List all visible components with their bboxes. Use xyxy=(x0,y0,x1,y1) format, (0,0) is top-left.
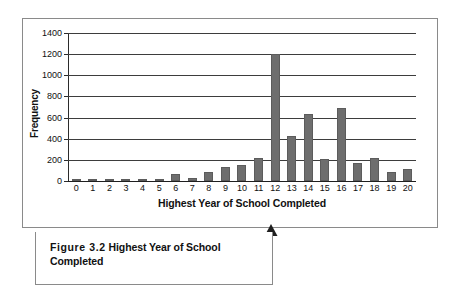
x-axis-tick-label: 8 xyxy=(206,183,211,193)
figure-caption-label: Figure 3.2 xyxy=(50,241,106,253)
x-axis-tick-label: 14 xyxy=(303,183,313,193)
y-axis-title: Frequency xyxy=(26,58,42,168)
x-axis-tick-label: 7 xyxy=(190,183,195,193)
y-axis-tick-label: 1400 xyxy=(42,28,62,38)
bar xyxy=(320,159,329,181)
bar xyxy=(287,136,296,181)
y-axis-tick-label: 1200 xyxy=(42,49,62,59)
x-axis-tick-label: 17 xyxy=(353,183,363,193)
x-axis-tick-label: 15 xyxy=(320,183,330,193)
x-axis-tick-label: 4 xyxy=(140,183,145,193)
figure-container: Frequency 0200400600800100012001400 0123… xyxy=(0,0,461,291)
x-axis-tick-label: 5 xyxy=(157,183,162,193)
bar-slot xyxy=(201,33,218,181)
bar-slot xyxy=(283,33,300,181)
x-axis-title: Highest Year of School Completed xyxy=(68,197,416,209)
x-axis-tick-label: 3 xyxy=(123,183,128,193)
bar xyxy=(353,163,362,182)
x-axis-tick-labels: 01234567891011121314151617181920 xyxy=(68,183,416,197)
bar xyxy=(221,167,230,181)
x-axis-tick-label: 0 xyxy=(74,183,79,193)
y-axis-tick-label: 0 xyxy=(57,176,62,186)
bar-slot xyxy=(333,33,350,181)
x-axis-tick-label: 16 xyxy=(336,183,346,193)
x-axis-tick-label: 1 xyxy=(90,183,95,193)
bar xyxy=(304,114,313,181)
y-axis-tick-label: 1000 xyxy=(42,70,62,80)
bar-slot xyxy=(399,33,416,181)
bar-slot xyxy=(167,33,184,181)
bar-slot xyxy=(217,33,234,181)
bar xyxy=(171,174,180,181)
x-axis-tick-label: 11 xyxy=(254,183,263,193)
bar-slot xyxy=(300,33,317,181)
bar-slot xyxy=(234,33,251,181)
y-axis-tick-label: 800 xyxy=(47,91,62,101)
x-axis-tick-label: 12 xyxy=(270,183,280,193)
y-axis-title-label: Frequency xyxy=(29,89,40,138)
x-axis-tick-label: 10 xyxy=(237,183,247,193)
bar xyxy=(254,158,263,181)
bar xyxy=(403,169,412,181)
y-axis-tick-label: 200 xyxy=(47,155,62,165)
x-axis-tick-label: 20 xyxy=(403,183,413,193)
plot-area: 0200400600800100012001400 xyxy=(68,33,416,181)
figure-caption-box: Figure 3.2 Highest Year of School Comple… xyxy=(35,232,273,285)
bar-slot xyxy=(317,33,334,181)
bar-slot xyxy=(267,33,284,181)
bar xyxy=(237,165,246,181)
figure-caption-text: Figure 3.2 Highest Year of School Comple… xyxy=(50,240,260,268)
x-axis-line xyxy=(68,181,416,182)
bar xyxy=(370,158,379,181)
bar-slot xyxy=(350,33,367,181)
bar-slot xyxy=(184,33,201,181)
x-axis-tick-label: 2 xyxy=(107,183,112,193)
x-axis-tick-label: 19 xyxy=(386,183,396,193)
bar-slot xyxy=(366,33,383,181)
bar xyxy=(271,54,280,181)
y-axis-tick-label: 400 xyxy=(47,134,62,144)
bar-slot xyxy=(118,33,135,181)
x-axis-tick-label: 13 xyxy=(287,183,297,193)
bar-slot xyxy=(383,33,400,181)
x-axis-tick-label: 6 xyxy=(173,183,178,193)
x-axis-tick-label: 9 xyxy=(223,183,228,193)
bar xyxy=(337,108,346,181)
bar-slot xyxy=(250,33,267,181)
bar-slot xyxy=(85,33,102,181)
bar-slot xyxy=(151,33,168,181)
bars-group xyxy=(68,33,416,181)
bar-slot xyxy=(101,33,118,181)
x-axis-tick-label: 18 xyxy=(370,183,380,193)
y-axis-tick-label: 600 xyxy=(47,113,62,123)
bar-slot xyxy=(134,33,151,181)
bar xyxy=(387,172,396,181)
bar xyxy=(204,172,213,181)
bar-slot xyxy=(68,33,85,181)
